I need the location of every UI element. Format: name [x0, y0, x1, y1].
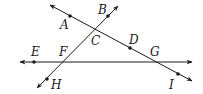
point-dot-h [45, 77, 49, 81]
point-label-c: C [91, 34, 100, 48]
point-label-f: F [58, 45, 68, 59]
line-BH [37, 6, 118, 88]
point-label-d: D [128, 33, 139, 47]
point-label-e: E [30, 45, 40, 59]
point-labels: ABCDEFGHI [30, 3, 174, 92]
point-label-i: I [168, 78, 174, 92]
geometry-diagram: ABCDEFGHI [0, 0, 203, 94]
point-dot-i [176, 72, 180, 76]
point-label-g: G [150, 45, 160, 59]
point-dot-a [68, 14, 72, 18]
point-label-h: H [50, 78, 62, 92]
lines [20, 5, 192, 88]
point-label-b: B [97, 3, 107, 17]
point-dot-e [32, 60, 36, 64]
point-label-a: A [59, 18, 69, 32]
